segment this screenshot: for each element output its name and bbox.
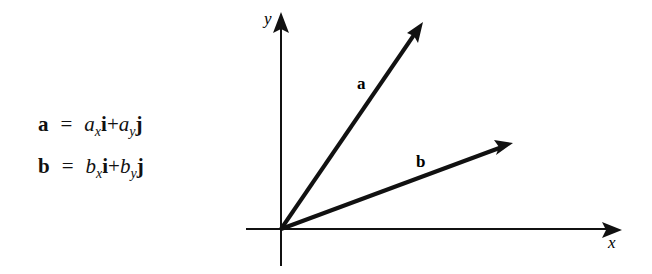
vector-b-label: b [416,152,425,171]
vector-b-arrow [281,140,513,229]
y-axis-label: y [262,9,272,28]
vector-diagram: y x a b [0,0,652,274]
vector-a-label: a [357,74,366,93]
vector-a-arrow [281,22,423,229]
x-axis [246,222,622,238]
x-axis-label: x [607,233,616,252]
